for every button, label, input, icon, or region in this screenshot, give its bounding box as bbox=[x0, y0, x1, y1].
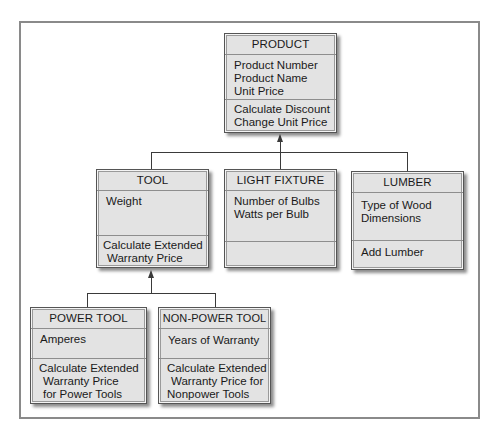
attribute: Type of Wood bbox=[361, 199, 455, 212]
arrowhead-product bbox=[277, 134, 283, 142]
class-name: POWER TOOL bbox=[31, 308, 146, 329]
method: Calculate Discount bbox=[234, 103, 330, 116]
method: Change Unit Price bbox=[234, 116, 330, 129]
method: Warranty Price for bbox=[167, 375, 264, 388]
attribute: Product Name bbox=[234, 72, 328, 85]
method: for Power Tools bbox=[39, 388, 140, 401]
attribute: Unit Price bbox=[234, 85, 328, 98]
class-power-tool: POWER TOOL Amperes Calculate Extended Wa… bbox=[30, 307, 147, 404]
attribute: Years of Warranty bbox=[168, 334, 262, 347]
attributes-section: Type of Wood Dimensions bbox=[352, 193, 463, 241]
arrowhead-tool bbox=[148, 270, 154, 278]
connector-tool-stem bbox=[151, 276, 152, 293]
class-name: TOOL bbox=[97, 170, 208, 191]
class-name: PRODUCT bbox=[225, 34, 336, 55]
method: Warranty Price bbox=[39, 375, 140, 388]
attribute: Dimensions bbox=[361, 212, 455, 225]
class-light-fixture: LIGHT FIXTURE Number of Bulbs Watts per … bbox=[224, 169, 337, 268]
class-name: LIGHT FIXTURE bbox=[225, 170, 336, 191]
class-lumber: LUMBER Type of Wood Dimensions Add Lumbe… bbox=[351, 171, 464, 270]
attributes-section: Weight bbox=[97, 191, 208, 236]
class-tool: TOOL Weight Calculate Extended Warranty … bbox=[96, 169, 209, 268]
method: Calculate Extended bbox=[39, 362, 140, 375]
attributes-section: Years of Warranty bbox=[159, 329, 270, 359]
attributes-section: Number of Bulbs Watts per Bulb bbox=[225, 191, 336, 242]
attribute: Watts per Bulb bbox=[234, 208, 328, 221]
methods-section: Calculate Extended Warranty Price for No… bbox=[159, 359, 270, 403]
method: Nonpower Tools bbox=[167, 388, 264, 401]
connector-non-power-tool-drop bbox=[215, 293, 216, 307]
attributes-section: Amperes bbox=[31, 329, 146, 359]
class-name: NON-POWER TOOL bbox=[159, 308, 270, 329]
attribute: Product Number bbox=[234, 59, 328, 72]
method: Calculate Extended bbox=[103, 239, 202, 252]
attribute: Weight bbox=[106, 195, 200, 208]
connector-power-tool-drop bbox=[87, 293, 88, 307]
methods-section: Calculate Discount Change Unit Price bbox=[225, 100, 336, 132]
connector-lumber-drop bbox=[407, 152, 408, 171]
method: Calculate Extended bbox=[167, 362, 264, 375]
class-product: PRODUCT Product Number Product Name Unit… bbox=[224, 33, 337, 133]
attribute: Number of Bulbs bbox=[234, 195, 328, 208]
connector-light-fixture-drop bbox=[280, 152, 281, 169]
class-non-power-tool: NON-POWER TOOL Years of Warranty Calcula… bbox=[158, 307, 271, 404]
attributes-section: Product Number Product Name Unit Price bbox=[225, 55, 336, 100]
connector-tool-drop bbox=[151, 152, 152, 169]
connector-level2-bar bbox=[87, 293, 216, 294]
method: Add Lumber bbox=[361, 246, 457, 259]
attribute: Amperes bbox=[40, 333, 138, 346]
methods-section: Calculate Extended Warranty Price for Po… bbox=[31, 359, 146, 403]
method: Warranty Price bbox=[103, 252, 202, 265]
methods-section bbox=[225, 242, 336, 267]
class-name: LUMBER bbox=[352, 172, 463, 193]
methods-section: Calculate Extended Warranty Price bbox=[97, 236, 208, 267]
methods-section: Add Lumber bbox=[352, 241, 463, 269]
